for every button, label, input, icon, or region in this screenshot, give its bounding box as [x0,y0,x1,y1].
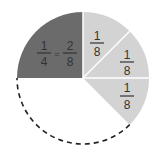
eighth-1-denominator: 8 [94,45,101,59]
equals-sign: = [54,49,59,59]
left-numerator: 1 [41,39,48,53]
eighth-3-denominator: 8 [124,98,131,112]
right-numerator: 2 [67,39,74,53]
eighth-3-numerator: 1 [124,81,131,95]
fraction-circle-diagram: 1 4 = 2 8 1 8 1 8 1 8 [0,0,154,156]
right-denominator: 8 [67,55,74,69]
eighth-slice-3 [83,78,149,125]
eighth-1-numerator: 1 [94,29,101,43]
left-denominator: 4 [41,55,48,69]
eighth-2-numerator: 1 [124,48,131,62]
eighth-2-denominator: 8 [124,64,131,78]
